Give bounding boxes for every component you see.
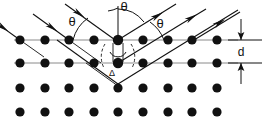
atom — [113, 107, 122, 116]
theta-top-arc — [108, 8, 118, 11]
bragg-diagram-figure: θ θ θ Δ d — [0, 0, 264, 126]
atom — [89, 83, 98, 92]
d-spacing-label: d — [238, 45, 245, 59]
atom — [212, 107, 221, 116]
atom — [212, 35, 221, 44]
atom — [40, 83, 49, 92]
atom — [212, 58, 221, 67]
atom — [138, 35, 147, 44]
atom — [113, 58, 123, 68]
atom — [212, 83, 221, 92]
atom-lattice-group — [15, 35, 221, 117]
path-difference-arc-left — [101, 44, 105, 68]
d-spacing-dimension — [228, 19, 262, 84]
atom — [40, 35, 49, 44]
atom — [64, 58, 73, 67]
atom — [138, 83, 147, 92]
atom — [113, 83, 122, 92]
atom — [64, 83, 73, 92]
reflected-ray-3-outer — [168, 10, 238, 53]
atom — [40, 58, 49, 67]
path-difference-small-arc — [110, 52, 126, 57]
atom — [163, 107, 172, 116]
atom — [163, 58, 172, 67]
atom — [89, 107, 98, 116]
atom — [64, 107, 73, 116]
theta-top-label: θ — [120, 0, 127, 14]
bragg-diagram-canvas: θ θ θ Δ d — [0, 0, 264, 126]
atom — [40, 107, 49, 116]
path-difference-label: Δ — [109, 68, 115, 78]
atom — [187, 35, 196, 44]
atom — [138, 58, 147, 67]
atom — [15, 35, 24, 44]
atom — [163, 35, 172, 44]
atom — [15, 83, 24, 92]
atom — [187, 58, 196, 67]
atom — [187, 83, 196, 92]
atom — [15, 58, 24, 67]
atom — [113, 35, 123, 45]
atom — [15, 107, 24, 116]
reflected-ray-3 — [118, 53, 168, 84]
atom — [138, 107, 147, 116]
atom — [64, 35, 73, 44]
theta-right-label: θ — [156, 16, 163, 31]
reflected-ray-group — [118, 4, 240, 84]
incident-ray-group — [0, 4, 118, 86]
reflected-arrowhead-2 — [185, 12, 199, 23]
atom — [187, 107, 196, 116]
atom — [163, 83, 172, 92]
path-difference-arc-right — [131, 44, 135, 68]
atom — [89, 58, 98, 67]
atom — [89, 35, 98, 44]
theta-left-label: θ — [68, 14, 75, 29]
reflected-ray-2 — [118, 26, 178, 63]
